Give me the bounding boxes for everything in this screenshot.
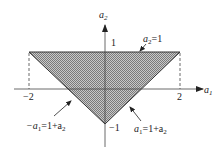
tick-y-pos: 1: [111, 37, 116, 48]
y-axis-label: a2: [99, 9, 108, 22]
label-right-constraint: a1=1+a2: [134, 123, 167, 136]
arrow-right-constraint: [130, 107, 141, 121]
tick-y-neg: −1: [109, 122, 120, 133]
x-axis-label: a1: [204, 84, 213, 97]
diagram-canvas: a1 a2 −2 2 1 −1 a2=1 −a1=1+a2 a1=1+a2: [0, 0, 221, 151]
tick-x-neg: −2: [23, 91, 34, 102]
feasible-region: [29, 52, 180, 124]
label-left-constraint: −a1=1+a2: [26, 120, 66, 133]
tick-x-pos: 2: [177, 91, 182, 102]
arrow-top-constraint: [140, 44, 146, 51]
arrow-left-constraint: [54, 101, 71, 116]
